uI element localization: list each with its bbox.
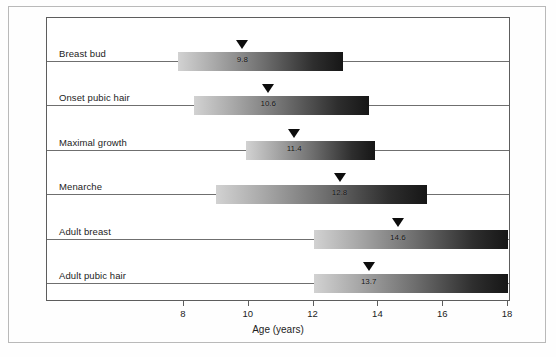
x-axis-tick-label: 10 [243,308,254,319]
category-label: Maximal growth [59,137,127,148]
category-label: Menarche [59,181,102,192]
mean-value-label: 12.8 [332,188,348,197]
range-bar [194,96,369,115]
mean-value-label: 14.6 [390,233,406,242]
mean-marker-icon [363,262,375,271]
plot-area: Breast bud9.8Onset pubic hair10.6Maximal… [46,17,510,301]
x-axis-title: Age (years) [0,324,556,335]
range-bar [246,141,376,160]
x-axis-tick-label: 8 [180,308,185,319]
mean-marker-icon [392,218,404,227]
x-axis-tick [507,301,508,306]
range-bar [314,230,508,249]
x-axis-tick-label: 14 [372,308,383,319]
mean-marker-icon [262,84,274,93]
x-axis-tick-label: 18 [502,308,513,319]
category-label: Adult breast [59,226,111,237]
range-bar [216,185,427,204]
x-axis-tick [183,301,184,306]
mean-marker-icon [288,129,300,138]
x-axis-tick [442,301,443,306]
mean-value-label: 11.4 [287,144,302,153]
x-axis-tick [313,301,314,306]
x-axis-tick-label: 12 [307,308,318,319]
category-label: Adult pubic hair [59,270,126,281]
category-label: Breast bud [59,48,106,59]
mean-marker-icon [236,40,248,49]
x-axis-tick [377,301,378,306]
mean-value-label: 10.6 [260,99,276,108]
pubertal-milestones-chart: Breast bud9.8Onset pubic hair10.6Maximal… [0,0,556,357]
mean-value-label: 9.8 [237,55,248,64]
range-bar [178,52,343,71]
mean-value-label: 13.7 [361,277,377,286]
range-bar [314,274,508,293]
x-axis-tick-label: 16 [437,308,448,319]
mean-marker-icon [334,173,346,182]
category-label: Onset pubic hair [59,92,130,103]
x-axis-tick [248,301,249,306]
